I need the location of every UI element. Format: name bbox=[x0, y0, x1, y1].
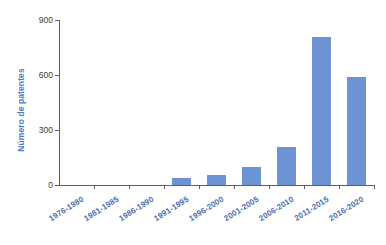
x-axis-tick-labels: 1976-19801981-19851986-19901991-19951996… bbox=[59, 186, 374, 245]
bar bbox=[242, 167, 262, 185]
y-tick-label: 300 bbox=[27, 126, 53, 135]
x-tick-mark bbox=[374, 185, 375, 189]
bar-chart: Número de patentes 0 300 600 900 1976-19… bbox=[0, 0, 386, 245]
bar bbox=[277, 147, 297, 185]
bar bbox=[312, 37, 332, 185]
bar bbox=[347, 77, 367, 185]
plot-area bbox=[59, 20, 374, 185]
y-tick-mark bbox=[55, 20, 59, 21]
y-tick-label: 900 bbox=[27, 16, 53, 25]
bar bbox=[172, 178, 192, 185]
y-axis-title: Número de patentes bbox=[16, 50, 26, 170]
y-axis-tick-labels: 0 300 600 900 bbox=[27, 0, 53, 245]
y-axis-line bbox=[59, 20, 60, 185]
bar bbox=[207, 175, 227, 185]
y-tick-mark bbox=[55, 130, 59, 131]
y-tick-label: 600 bbox=[27, 71, 53, 80]
y-tick-label: 0 bbox=[27, 181, 53, 190]
y-tick-mark bbox=[55, 75, 59, 76]
